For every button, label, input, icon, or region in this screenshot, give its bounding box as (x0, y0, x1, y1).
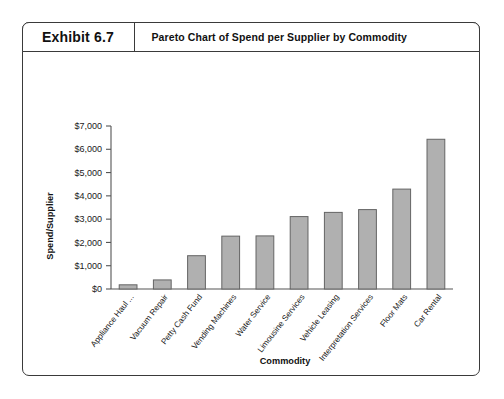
category-label: Floor Mats (378, 293, 409, 329)
pareto-bar-chart: $0$1,000$2,000$3,000$4,000$5,000$6,000$7… (23, 53, 478, 375)
bar (222, 236, 240, 289)
bar-series (119, 139, 445, 289)
exhibit-number: Exhibit 6.7 (23, 23, 135, 51)
y-axis-tick-label: $5,000 (74, 168, 102, 178)
bar (393, 189, 411, 289)
bar (324, 212, 342, 289)
bar (119, 285, 137, 289)
x-axis-title: Commodity (260, 356, 311, 366)
y-axis-tick-label: $0 (92, 284, 102, 294)
exhibit-header: Exhibit 6.7 Pareto Chart of Spend per Su… (22, 22, 480, 52)
y-axis-tick-label: $3,000 (74, 214, 102, 224)
bar (427, 139, 445, 289)
y-axis-title: Spend/Supplier (45, 192, 55, 260)
category-labels: Appliance Haul ...Vacuum RepairPetty Cas… (89, 292, 444, 362)
y-axis-tick-label: $6,000 (74, 144, 102, 154)
bar (188, 256, 206, 289)
category-label: Car Rental (412, 293, 443, 330)
y-axis: $0$1,000$2,000$3,000$4,000$5,000$6,000$7… (74, 121, 111, 294)
y-axis-tick-label: $4,000 (74, 191, 102, 201)
bar (256, 236, 274, 289)
y-axis-tick-label: $2,000 (74, 238, 102, 248)
chart-canvas: $0$1,000$2,000$3,000$4,000$5,000$6,000$7… (23, 53, 478, 375)
y-axis-tick-label: $7,000 (74, 121, 102, 131)
category-label: Appliance Haul ... (89, 293, 136, 349)
category-label: Water Service (234, 292, 273, 338)
y-axis-tick-label: $1,000 (74, 261, 102, 271)
exhibit-frame: Exhibit 6.7 Pareto Chart of Spend per Su… (22, 22, 480, 376)
bar (359, 210, 377, 289)
bar (290, 217, 308, 289)
bar (153, 280, 171, 289)
exhibit-title: Pareto Chart of Spend per Supplier by Co… (135, 23, 479, 51)
